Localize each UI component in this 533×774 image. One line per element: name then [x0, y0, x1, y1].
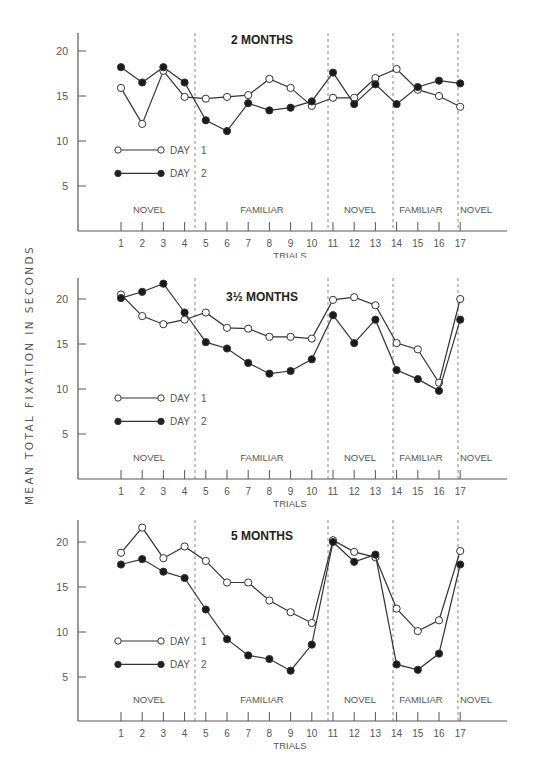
open-circle-icon [158, 395, 164, 401]
x-tick-label: 15 [412, 486, 424, 497]
data-point-day-2 [414, 376, 421, 383]
data-point-day-1 [435, 617, 442, 624]
data-point-day-1 [266, 75, 273, 82]
phase-label: NOVEL [133, 694, 165, 705]
y-tick-label: 20 [56, 45, 68, 57]
open-circle-icon [158, 638, 164, 644]
data-point-day-1 [414, 346, 421, 353]
phase-label: NOVEL [460, 452, 492, 463]
open-circle-icon [115, 147, 121, 153]
legend-label: DAY [170, 416, 190, 427]
data-point-day-2 [223, 345, 230, 352]
x-tick-label: 7 [245, 728, 251, 739]
x-tick-label: 14 [391, 486, 403, 497]
data-point-day-2 [351, 558, 358, 565]
chart-title: 3½ MONTHS [226, 290, 298, 304]
x-tick-label: 13 [370, 486, 382, 497]
x-tick-label: 10 [306, 728, 318, 739]
data-point-day-1 [287, 609, 294, 616]
data-point-day-1 [139, 120, 146, 127]
x-tick-label: 16 [433, 486, 445, 497]
data-point-day-2 [287, 667, 294, 674]
x-tick-label: 3 [161, 238, 167, 249]
phase-label: FAMILIAR [399, 204, 442, 215]
phase-label: NOVEL [460, 204, 492, 215]
y-tick-label: 5 [62, 428, 68, 440]
data-point-day-2 [223, 128, 230, 135]
data-point-day-2 [245, 359, 252, 366]
data-point-day-1 [245, 325, 252, 332]
data-point-day-1 [393, 605, 400, 612]
x-tick-label: 14 [391, 728, 403, 739]
data-point-day-2 [223, 636, 230, 643]
x-tick-label: 17 [455, 486, 467, 497]
x-tick-label: 11 [328, 728, 339, 739]
y-tick-label: 20 [56, 536, 68, 548]
data-point-day-1 [287, 333, 294, 340]
data-point-day-1 [202, 309, 209, 316]
x-tick-label: 13 [370, 728, 382, 739]
data-point-day-2 [139, 79, 146, 86]
x-tick-label: 1 [118, 486, 124, 497]
data-point-day-2 [329, 312, 336, 319]
phase-label: FAMILIAR [240, 452, 283, 463]
data-point-day-1 [351, 294, 358, 301]
chart-panel-2-months: 51015201234567891011121314151617TRIALSNO… [0, 0, 533, 258]
filled-circle-icon [115, 170, 121, 176]
x-tick-label: 2 [139, 238, 145, 249]
data-point-day-1 [457, 547, 464, 554]
data-point-day-2 [414, 83, 421, 90]
x-tick-label: 7 [245, 238, 251, 249]
filled-circle-icon [158, 170, 164, 176]
x-tick-label: 3 [161, 486, 167, 497]
phase-label: FAMILIAR [399, 452, 442, 463]
y-tick-label: 5 [62, 671, 68, 683]
x-axis-title: TRIALS [273, 498, 306, 508]
data-point-day-2 [287, 104, 294, 111]
data-point-day-2 [393, 367, 400, 374]
x-tick-label: 15 [412, 238, 424, 249]
x-tick-label: 5 [203, 486, 209, 497]
phase-label: NOVEL [344, 694, 376, 705]
data-point-day-2 [308, 356, 315, 363]
data-point-day-2 [160, 568, 167, 575]
data-point-day-1 [372, 302, 379, 309]
data-point-day-2 [117, 64, 124, 71]
data-point-day-2 [117, 561, 124, 568]
x-tick-label: 12 [349, 728, 361, 739]
open-circle-icon [115, 638, 121, 644]
data-point-day-1 [457, 295, 464, 302]
y-tick-label: 15 [56, 90, 68, 102]
y-tick-label: 15 [56, 581, 68, 593]
data-point-day-1 [181, 316, 188, 323]
chart-panel-5-months: 51015201234567891011121314151617TRIALSNO… [0, 508, 533, 774]
data-point-day-1 [457, 103, 464, 110]
x-tick-label: 14 [391, 238, 403, 249]
data-point-day-1 [414, 628, 421, 635]
data-point-day-2 [139, 556, 146, 563]
series-day-2 [121, 542, 460, 671]
data-point-day-2 [245, 100, 252, 107]
data-point-day-2 [202, 606, 209, 613]
data-point-day-1 [181, 543, 188, 550]
y-tick-label: 15 [56, 338, 68, 350]
chart-panel-3-5-months: 51015201234567891011121314151617TRIALSNO… [0, 258, 533, 508]
data-point-day-2 [181, 79, 188, 86]
data-point-day-1 [266, 597, 273, 604]
data-point-day-2 [435, 650, 442, 657]
x-tick-label: 10 [306, 238, 318, 249]
x-tick-label: 17 [455, 728, 467, 739]
data-point-day-1 [393, 65, 400, 72]
data-point-day-1 [223, 579, 230, 586]
x-tick-label: 12 [349, 238, 361, 249]
phase-label: NOVEL [344, 452, 376, 463]
data-point-day-1 [202, 95, 209, 102]
open-circle-icon [158, 147, 164, 153]
x-axis-title: TRIALS [273, 250, 306, 258]
data-point-day-1 [160, 321, 167, 328]
data-point-day-2 [435, 77, 442, 84]
series-day-2 [121, 67, 460, 131]
legend-label: DAY [170, 168, 190, 179]
x-tick-label: 5 [203, 238, 209, 249]
data-point-day-1 [329, 296, 336, 303]
